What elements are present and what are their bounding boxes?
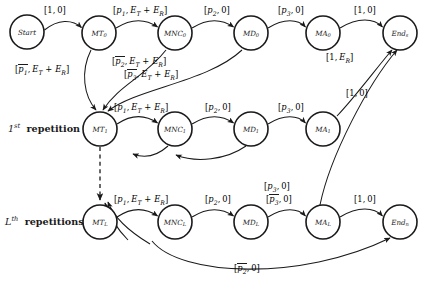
svg-text:MNC1: MNC1 bbox=[163, 125, 186, 135]
edge-label-ma0-ends-er: [1, ER] bbox=[326, 53, 353, 64]
node-endn[interactable]: Endn bbox=[383, 205, 417, 239]
edge-mncl-to-mdl bbox=[192, 210, 234, 217]
node-mncl[interactable]: MNCL bbox=[158, 205, 192, 239]
node-ends[interactable]: Ends bbox=[383, 16, 417, 50]
edge-md0-to-ma0 bbox=[268, 21, 306, 28]
edge-mtl-to-mncl bbox=[117, 210, 158, 217]
node-mt1[interactable]: MT1 bbox=[83, 112, 117, 146]
caption-suffix-th: th bbox=[11, 215, 18, 223]
edge-label-mnc0-md0: [p2, 0] bbox=[204, 6, 230, 17]
edge-label-mtl-mncl: [p1, ET + ER] bbox=[114, 195, 168, 206]
caption-text-repetition: repetition bbox=[23, 123, 80, 134]
edge-label-ma1-endn: [p3, 0] bbox=[264, 182, 290, 193]
edge-label-mdl-mal: [p3, 0] bbox=[266, 194, 292, 206]
edge-label-mt1-mnc1: [p1, ET + ER] bbox=[114, 103, 168, 114]
edge-start-to-mt0 bbox=[45, 21, 82, 30]
diagram-canvas: Start MT0 MNC0 MD0 MA0 Ends MT1 MNC1 bbox=[0, 0, 426, 294]
edge-md1-back bbox=[176, 146, 246, 159]
edge-label-md0-ma0: [p3, 0] bbox=[278, 6, 304, 17]
edge-mt0-to-mnc0 bbox=[116, 21, 158, 28]
node-mdl[interactable]: MDL bbox=[234, 205, 268, 239]
edge-label-ma0-ends: [1, 0] bbox=[354, 6, 376, 14]
node-mal[interactable]: MAL bbox=[306, 205, 340, 239]
edge-label-mnc1-md1: [p2, 0] bbox=[205, 103, 231, 114]
edge-mt1-to-mnc1 bbox=[117, 117, 158, 124]
svg-text:Start: Start bbox=[18, 28, 36, 37]
edge-label-md1-ma1: [p3, 0] bbox=[278, 103, 304, 114]
caption-text-repetitions: repetitions bbox=[21, 216, 83, 227]
edge-mnc0-to-md0 bbox=[192, 21, 234, 28]
node-ma1[interactable]: MA1 bbox=[306, 112, 340, 146]
node-mtl[interactable]: MTL bbox=[83, 205, 117, 239]
edge-mt0-to-mt1 bbox=[85, 50, 96, 110]
edge-mncl-bottom-to-endn bbox=[152, 238, 390, 269]
edge-mdl-to-mal bbox=[268, 210, 306, 217]
edge-label-start-mt0: [1, 0] bbox=[44, 6, 66, 14]
edge-label-md0-mt1: [p3, ET + ER] bbox=[124, 69, 178, 81]
edge-label-mncl-mdl: [p2, 0] bbox=[205, 195, 231, 206]
edge-mnc1-to-md1 bbox=[192, 117, 234, 124]
edge-mal-to-endn bbox=[340, 209, 383, 217]
node-md0[interactable]: MD0 bbox=[234, 16, 268, 50]
node-mnc0[interactable]: MNC0 bbox=[158, 16, 192, 50]
node-md1[interactable]: MD1 bbox=[234, 112, 268, 146]
caption-lth-repetitions: Lth repetitions bbox=[5, 216, 84, 227]
caption-suffix-st: st bbox=[14, 122, 20, 130]
edge-ma0-to-ends bbox=[340, 20, 383, 28]
edge-label-mt0-mnc0: [p1, ET + ER] bbox=[113, 6, 167, 17]
node-mnc1[interactable]: MNC1 bbox=[158, 112, 192, 146]
node-start[interactable]: Start bbox=[10, 15, 44, 49]
node-ma0[interactable]: MA0 bbox=[306, 16, 340, 50]
edge-label-ma1-ends: [1, 0] bbox=[346, 89, 368, 97]
edge-mnc1-back bbox=[133, 146, 168, 156]
edge-label-mt0-mt1: [p1, ET + ER] bbox=[15, 64, 69, 76]
edge-md1-to-ma1 bbox=[268, 117, 306, 124]
state-diagram: Start MT0 MNC0 MD0 MA0 Ends MT1 MNC1 bbox=[0, 0, 426, 294]
caption-first-repetition: 1st repetition bbox=[8, 123, 80, 134]
edge-label-mnc0-mt1: [p2, ET + ER] bbox=[112, 56, 166, 68]
edge-label-bottom-p2bar: [p2, 0] bbox=[234, 263, 260, 275]
edge-label-mal-endn: [1, 0] bbox=[354, 195, 376, 203]
node-mt0[interactable]: MT0 bbox=[82, 16, 116, 50]
